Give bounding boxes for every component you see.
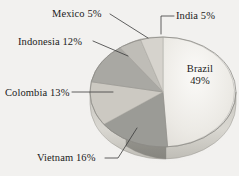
pie-chart: Mexico 5% India 5% Indonesia 12% Colombi…: [0, 0, 239, 176]
slice-label-colombia: Colombia 13%: [5, 87, 70, 99]
slice-label-brazil-value: 49%: [178, 75, 222, 87]
slice-label-indonesia: Indonesia 12%: [18, 36, 82, 48]
leader-line-india: [161, 16, 174, 34]
slice-label-brazil: Brazil 49%: [178, 63, 222, 86]
leader-line-mexico: [110, 14, 148, 38]
slice-label-mexico: Mexico 5%: [52, 8, 102, 20]
slice-label-india: India 5%: [176, 10, 215, 22]
slice-label-vietnam: Vietnam 16%: [37, 152, 96, 164]
slice-label-brazil-name: Brazil: [178, 63, 222, 75]
